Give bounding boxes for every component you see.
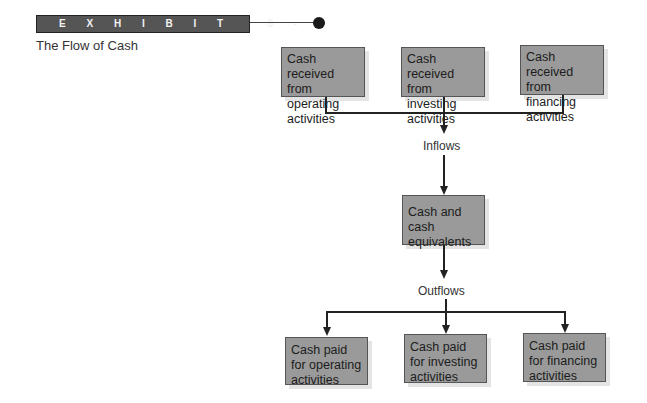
banner-connector-line xyxy=(250,22,316,23)
connector-stem xyxy=(325,97,327,113)
exhibit-title: The Flow of Cash xyxy=(36,38,138,53)
arrow-down-icon xyxy=(442,325,450,334)
box-cash-received-operating: Cash received from operating activities xyxy=(281,47,365,97)
connector-stem xyxy=(564,311,566,325)
arrow-down-icon xyxy=(440,270,448,279)
connector-stem xyxy=(562,95,564,113)
arrow-down-icon xyxy=(323,327,331,336)
inflows-label: Inflows xyxy=(423,139,460,153)
arrow-down-icon xyxy=(561,324,569,333)
outflow-connector-bar xyxy=(326,311,566,313)
connector-stem xyxy=(443,97,445,127)
arrow-down-icon xyxy=(440,125,448,134)
box-cash-received-financing: Cash received from financing activities xyxy=(520,45,604,95)
connector-stem xyxy=(443,155,445,187)
box-cash-paid-operating: Cash paid for operating activities xyxy=(285,337,368,385)
box-cash-received-investing: Cash received from investing activities xyxy=(401,47,485,97)
connector-stem xyxy=(443,245,445,271)
box-cash-and-equivalents: Cash and cash equivalents xyxy=(402,195,485,245)
box-cash-paid-financing: Cash paid for financing activities xyxy=(523,333,606,382)
outflows-label: Outflows xyxy=(418,284,465,298)
arrow-down-icon xyxy=(440,186,448,195)
connector-stem xyxy=(326,311,328,327)
exhibit-banner: E X H I B I T 8 - 3 xyxy=(36,15,250,33)
box-cash-paid-investing: Cash paid for investing activities xyxy=(404,334,487,383)
banner-dot-icon xyxy=(313,17,325,29)
